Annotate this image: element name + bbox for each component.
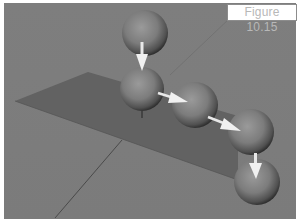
sphere-3 xyxy=(172,82,218,128)
sphere-4 xyxy=(228,109,274,155)
sphere-1 xyxy=(122,10,168,56)
figure-label: Figure 10.15 xyxy=(227,4,297,21)
